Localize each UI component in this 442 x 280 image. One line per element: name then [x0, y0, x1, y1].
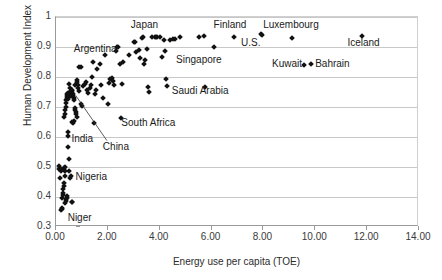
- data-point: [69, 199, 75, 205]
- data-point: [126, 52, 132, 58]
- x-axis-title: Energy use per capita (TOE): [55, 256, 418, 267]
- data-point: [144, 47, 150, 53]
- data-point: [159, 54, 165, 60]
- country-label: Kuwait: [272, 58, 302, 69]
- data-point: [132, 39, 138, 45]
- country-label: Singapore: [176, 53, 222, 64]
- data-point: [99, 82, 105, 88]
- data-point: [146, 89, 152, 95]
- data-point: [119, 81, 125, 87]
- gridline: [56, 107, 417, 108]
- x-tick-mark: [211, 226, 212, 230]
- country-label: U.S.: [241, 37, 260, 48]
- data-point: [143, 57, 149, 63]
- y-tick-label: 0.8: [27, 71, 51, 81]
- data-point: [93, 87, 99, 93]
- data-point: [71, 98, 77, 104]
- data-point: [162, 48, 168, 54]
- country-label: India: [71, 133, 93, 144]
- country-label: Luxembourg: [263, 19, 319, 30]
- y-tick-label: 0.9: [27, 41, 51, 51]
- y-tick-label: 1: [27, 11, 51, 21]
- data-point: [231, 34, 237, 40]
- gridline: [56, 167, 417, 168]
- data-point: [90, 59, 96, 65]
- country-label: China: [103, 140, 129, 151]
- x-tick-label: 12.00: [346, 232, 386, 242]
- x-tick-mark: [262, 226, 263, 230]
- x-tick-mark: [418, 226, 419, 230]
- data-point: [100, 95, 106, 101]
- y-tick-label: 0.3: [27, 221, 51, 231]
- x-tick-label: 2.00: [87, 232, 127, 242]
- data-point: [161, 37, 167, 43]
- data-point: [105, 101, 111, 107]
- data-point: [289, 35, 295, 41]
- data-point: [66, 156, 72, 162]
- x-tick-label: 10.00: [294, 232, 334, 242]
- x-tick-mark: [366, 226, 367, 230]
- data-point: [196, 34, 202, 40]
- x-tick-label: 6.00: [191, 232, 231, 242]
- country-label: Finland: [214, 19, 247, 30]
- data-point: [121, 59, 127, 65]
- x-axis-ticks: 0.002.004.006.008.0010.0012.0014.00: [0, 232, 442, 246]
- country-label: Japan: [131, 18, 158, 29]
- gridline: [56, 137, 417, 138]
- data-point: [65, 144, 71, 150]
- data-point: [76, 88, 82, 94]
- y-tick-mark: [76, 226, 80, 227]
- x-tick-mark: [107, 226, 108, 230]
- country-label: Niger: [68, 212, 92, 223]
- data-point: [165, 83, 171, 89]
- data-point: [201, 33, 207, 39]
- y-tick-label: 0.4: [27, 191, 51, 201]
- y-tick-label: 0.7: [27, 101, 51, 111]
- country-label: Saudi Arabia: [172, 85, 229, 96]
- x-tick-label: 4.00: [139, 232, 179, 242]
- gridline: [56, 197, 417, 198]
- data-point: [86, 90, 92, 96]
- data-point: [163, 77, 169, 83]
- data-point: [309, 62, 315, 68]
- country-label: Nigeria: [75, 170, 107, 181]
- country-label: Argentina: [74, 43, 117, 54]
- data-point: [178, 34, 184, 40]
- x-tick-mark: [159, 226, 160, 230]
- data-point: [91, 120, 97, 126]
- x-tick-mark: [314, 226, 315, 230]
- y-tick-label: 0.6: [27, 131, 51, 141]
- data-point: [97, 61, 103, 67]
- data-point: [89, 74, 95, 80]
- scatter-chart: Human Development Index 0.30.40.50.60.70…: [0, 0, 442, 280]
- x-tick-label: 8.00: [242, 232, 282, 242]
- x-tick-mark: [55, 226, 56, 230]
- y-tick-label: 0.5: [27, 161, 51, 171]
- country-label: Iceland: [347, 36, 379, 47]
- data-point: [111, 82, 117, 88]
- country-label: Bahrain: [315, 57, 349, 68]
- x-tick-label: 0.00: [35, 232, 75, 242]
- data-point: [211, 44, 217, 50]
- x-tick-label: 14.00: [398, 232, 438, 242]
- country-label: South Africa: [121, 116, 175, 127]
- y-axis-ticks: 0.30.40.50.60.70.80.91: [25, 16, 51, 226]
